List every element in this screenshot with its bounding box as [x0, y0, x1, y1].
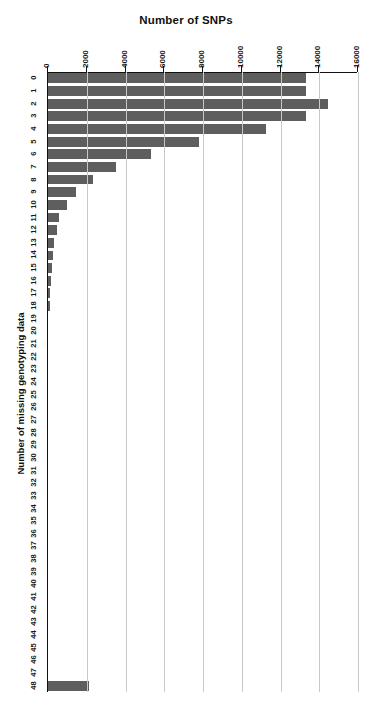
bar	[48, 263, 52, 273]
x-axis-tick-mark	[357, 66, 358, 72]
x-axis-tick-mark	[202, 66, 203, 72]
gridline	[126, 72, 127, 692]
x-axis-tick-mark	[280, 66, 281, 72]
x-axis-tick-mark	[318, 66, 319, 72]
y-axis-tick-label: 48	[29, 674, 38, 696]
bar	[48, 301, 50, 311]
bar	[48, 238, 54, 248]
x-axis-tick-mark	[47, 66, 48, 72]
gridline	[242, 72, 243, 692]
x-axis-tick-mark	[125, 66, 126, 72]
bar	[48, 162, 116, 172]
x-axis-tick-label: 10000	[236, 46, 245, 68]
bar	[48, 225, 57, 235]
bar	[48, 288, 50, 298]
snp-missing-genotype-bar-chart: Number of SNPs 0200040006000800010000120…	[0, 0, 372, 717]
gridline	[358, 72, 359, 692]
x-axis-tick-labels: 0200040006000800010000120001400016000	[0, 38, 372, 68]
x-axis-tick-mark	[86, 66, 87, 72]
gridline	[319, 72, 320, 692]
bar	[48, 200, 67, 210]
gridline	[203, 72, 204, 692]
gridline	[164, 72, 165, 692]
x-axis-tick-mark	[163, 66, 164, 72]
bar	[48, 149, 151, 159]
bar	[48, 99, 328, 109]
x-axis-tick-label: 12000	[275, 46, 284, 68]
bar	[48, 681, 89, 691]
bar	[48, 213, 59, 223]
bar	[48, 137, 199, 147]
chart-title: Number of SNPs	[0, 14, 372, 26]
bar	[48, 187, 76, 197]
x-axis-tick-label: 16000	[352, 46, 361, 68]
gridline	[281, 72, 282, 692]
x-axis-tick-label: 14000	[313, 46, 322, 68]
bar	[48, 276, 51, 286]
gridline	[87, 72, 88, 692]
x-axis-tick-mark	[241, 66, 242, 72]
bar	[48, 124, 266, 134]
y-axis-title: Number of missing genotyping data	[15, 294, 26, 494]
plot-area	[47, 72, 357, 692]
bar	[48, 251, 53, 261]
